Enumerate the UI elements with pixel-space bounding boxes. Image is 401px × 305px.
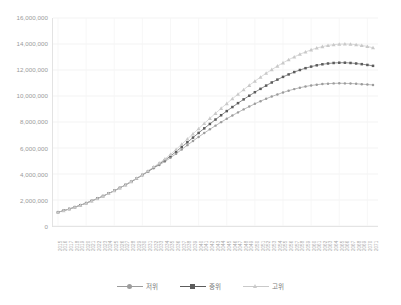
- y-axis: 02,000,0004,000,0006,000,0008,000,00010,…: [0, 0, 48, 245]
- x-tick-label: 2045: [228, 229, 233, 251]
- y-tick-label: 0: [0, 224, 48, 230]
- population-projection-chart: 02,000,0004,000,0006,000,0008,000,00010,…: [0, 0, 401, 305]
- x-tick-label: 2053: [273, 229, 278, 251]
- legend-marker-low-icon: [117, 282, 143, 291]
- legend-label-low: 저위: [146, 283, 158, 290]
- y-tick-label: 12,000,000: [0, 67, 48, 73]
- legend-label-mid: 중위: [209, 283, 221, 290]
- x-tick-label: 2017: [70, 229, 75, 251]
- legend-item-low[interactable]: 저위: [117, 282, 158, 291]
- x-tick-label: 2059: [307, 229, 312, 251]
- x-tick-label: 2031: [149, 229, 154, 251]
- y-tick-label: 10,000,000: [0, 93, 48, 99]
- x-tick-label: 2071: [375, 229, 380, 251]
- x-tick-label: 2042: [211, 229, 216, 251]
- chart-legend: 저위 중위 고위: [0, 282, 401, 291]
- legend-marker-high-icon: [243, 282, 269, 291]
- plot-area: [52, 18, 378, 227]
- x-tick-label: 2050: [256, 229, 261, 251]
- y-tick-label: 16,000,000: [0, 15, 48, 21]
- legend-item-high[interactable]: 고위: [243, 282, 284, 291]
- x-tick-label: 2064: [335, 229, 340, 251]
- y-tick-label: 4,000,000: [0, 172, 48, 178]
- x-axis: 2015201620172018201920202021202220232024…: [52, 229, 378, 255]
- data-series-layer: [53, 18, 378, 226]
- y-tick-label: 8,000,000: [0, 119, 48, 125]
- x-tick-label: 2056: [290, 229, 295, 251]
- y-tick-label: 6,000,000: [0, 146, 48, 152]
- x-tick-label: 2067: [352, 229, 357, 251]
- x-tick-label: 2036: [177, 229, 182, 251]
- legend-item-mid[interactable]: 중위: [180, 282, 221, 291]
- y-tick-label: 14,000,000: [0, 41, 48, 47]
- x-tick-label: 2039: [194, 229, 199, 251]
- legend-marker-mid-icon: [180, 282, 206, 291]
- x-tick-label: 2028: [132, 229, 137, 251]
- x-tick-label: 2070: [369, 229, 374, 251]
- y-tick-label: 2,000,000: [0, 198, 48, 204]
- x-tick-label: 2025: [115, 229, 120, 251]
- x-tick-label: 2022: [98, 229, 103, 251]
- legend-label-high: 고위: [272, 283, 284, 290]
